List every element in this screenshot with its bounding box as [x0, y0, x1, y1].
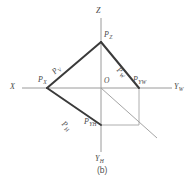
- axis-label-yw: YW: [174, 83, 184, 91]
- figure-caption: (b): [97, 166, 107, 175]
- projection-diagram: X YW Z YH O PZ PX PYW PYH PV PW PH (b): [0, 0, 187, 180]
- bisector-diagonal: [101, 88, 157, 138]
- trace-polygon: [47, 42, 139, 125]
- axis-label-yh: YH: [95, 155, 104, 163]
- point-label-pz: PZ: [104, 31, 112, 39]
- point-label-pyw: PYW: [133, 76, 146, 84]
- point-label-px: PX: [38, 76, 47, 84]
- origin-label: O: [104, 77, 110, 85]
- axis-label-z: Z: [96, 7, 101, 15]
- diagram-canvas: [0, 0, 187, 180]
- construction-lines: [101, 88, 157, 138]
- axis-label-x: X: [10, 83, 15, 91]
- point-label-pyh: PYH: [84, 118, 97, 126]
